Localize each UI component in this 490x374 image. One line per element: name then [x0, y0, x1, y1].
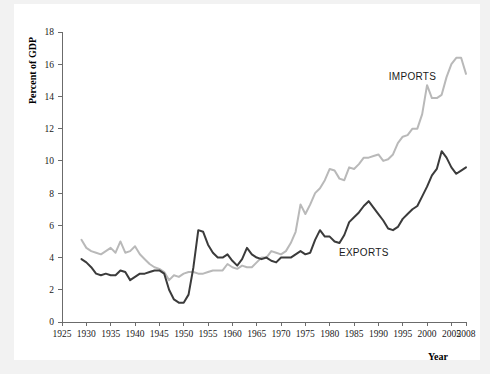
x-tick-label: 1985	[345, 329, 364, 339]
series-line-exports	[81, 151, 466, 302]
y-tick-label: 12	[45, 124, 55, 134]
y-tick-label: 4	[49, 253, 54, 263]
chart-screenshot: 024681012141618 192519301935194019451950…	[0, 0, 490, 374]
x-tick-label: 2008	[457, 329, 476, 339]
x-tick-label: 1925	[53, 329, 72, 339]
series-annotations: IMPORTSEXPORTS	[339, 71, 436, 258]
x-tick-label: 1950	[174, 329, 193, 339]
x-tick-label: 1975	[296, 329, 315, 339]
y-axis-ticks: 024681012141618	[45, 27, 63, 327]
y-tick-label: 6	[49, 221, 54, 231]
x-tick-label: 1945	[150, 329, 169, 339]
x-tick-label: 1935	[101, 329, 120, 339]
series-label-exports: EXPORTS	[339, 247, 389, 258]
y-tick-label: 8	[49, 189, 54, 199]
series-line-imports	[81, 58, 466, 280]
x-tick-label: 1970	[272, 329, 291, 339]
x-axis-ticks: 1925193019351940194519501955196019651970…	[53, 322, 476, 339]
y-tick-label: 0	[49, 317, 54, 327]
x-tick-label: 1965	[247, 329, 266, 339]
x-tick-label: 1930	[77, 329, 96, 339]
x-tick-label: 1980	[320, 329, 339, 339]
y-tick-label: 10	[45, 156, 55, 166]
y-tick-label: 16	[45, 60, 55, 70]
x-tick-label: 1940	[126, 329, 145, 339]
line-chart-figure: 024681012141618 192519301935194019451950…	[0, 0, 490, 374]
x-tick-label: 1960	[223, 329, 242, 339]
chart-svg: 024681012141618 192519301935194019451950…	[0, 0, 490, 374]
x-tick-label: 2000	[418, 329, 437, 339]
y-tick-label: 18	[45, 27, 55, 37]
series-group	[81, 58, 466, 303]
x-tick-label: 1995	[393, 329, 412, 339]
y-tick-label: 2	[49, 285, 54, 295]
x-axis-title: Year	[428, 351, 449, 362]
y-axis-title: Percent of GDP	[27, 37, 38, 104]
x-tick-label: 1990	[369, 329, 388, 339]
y-tick-label: 14	[45, 92, 55, 102]
series-label-imports: IMPORTS	[389, 71, 437, 82]
x-tick-label: 1955	[199, 329, 218, 339]
